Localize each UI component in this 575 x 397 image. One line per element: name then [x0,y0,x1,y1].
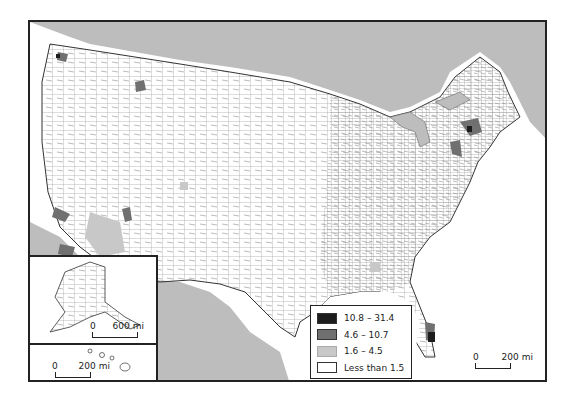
legend-item: 4.6 – 10.7 [317,327,405,344]
legend-label: 4.6 – 10.7 [344,330,389,340]
legend: 10.8 – 31.4 4.6 – 10.7 1.6 – 4.5 Less th… [310,305,412,379]
hawaii-scale-zero: 0 [52,361,58,371]
main-scale: 0 200 mi [473,352,533,362]
legend-label: 1.6 – 4.5 [344,346,383,356]
main-scale-distance: 200 mi [502,352,533,362]
legend-swatch [317,346,337,357]
legend-label: Less than 1.5 [344,363,404,373]
legend-item: Less than 1.5 [317,360,405,377]
alaska-scale-zero: 0 [90,321,96,331]
legend-label: 10.8 – 31.4 [344,313,394,323]
legend-swatch [317,329,337,340]
hawaii-scale-distance: 200 mi [79,361,110,371]
alaska-scale-distance: 600 mi [113,321,144,331]
main-scale-zero: 0 [473,352,479,362]
legend-item: 1.6 – 4.5 [317,343,405,360]
alaska-inset: 0 600 mi [28,255,158,345]
hawaii-scale: 0 200 mi [52,361,110,371]
legend-item: 10.8 – 31.4 [317,310,405,327]
legend-swatch [317,362,337,373]
legend-swatch [317,313,337,324]
hawaii-inset: 0 200 mi [28,343,158,382]
alaska-scale: 0 600 mi [90,321,144,331]
